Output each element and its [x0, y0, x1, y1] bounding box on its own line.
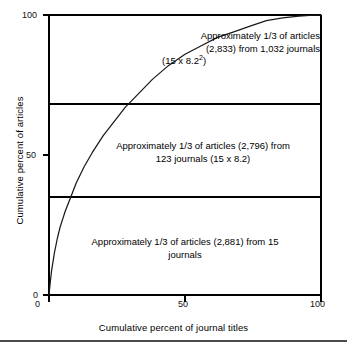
chart-figure: 100 50 0 0 50 100 Cumulative percent of …	[0, 0, 347, 349]
footer-rule-svg	[0, 0, 347, 349]
